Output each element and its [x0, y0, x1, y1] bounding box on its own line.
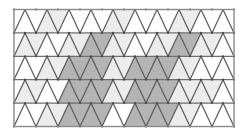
- triangle-edge: [14, 10, 25, 33]
- lattice-vertex-dot: [57, 55, 59, 57]
- lattice-vertex-dot: [167, 79, 169, 81]
- lattice-vertex-dot: [101, 55, 103, 57]
- lattice-vertex-dot: [178, 79, 180, 81]
- lattice-vertex-dot: [145, 102, 147, 104]
- lattice-vertex-dot: [222, 79, 224, 81]
- triangle-edge: [14, 56, 25, 79]
- triangle-edge: [157, 10, 168, 33]
- triangle-edge: [25, 10, 36, 33]
- lattice-vertex-dot: [200, 55, 202, 57]
- lattice-vertex-dot: [189, 102, 191, 104]
- triangle-edge: [80, 10, 91, 33]
- lattice-vertex-dot: [211, 79, 213, 81]
- lattice-vertex-dot: [35, 102, 37, 104]
- triangle-edge: [223, 33, 234, 56]
- lattice-vertex-dot: [90, 79, 92, 81]
- lattice-vertex-dot: [24, 102, 26, 104]
- triangle-edge: [212, 56, 223, 79]
- lattice-vertex-dot: [57, 32, 59, 34]
- lattice-vertex-dot: [68, 102, 70, 104]
- lattice-vertex-dot: [222, 102, 224, 104]
- lattice-vertex-dot: [178, 102, 180, 104]
- lattice-vertex-dot: [178, 55, 180, 57]
- lattice-vertex-dot: [112, 55, 114, 57]
- lattice-vertex-dot: [24, 55, 26, 57]
- lattice-vertex-dot: [200, 102, 202, 104]
- triangle-edge: [14, 103, 25, 126]
- lattice-vertex-dot: [145, 79, 147, 81]
- lattice-vertex-dot: [46, 79, 48, 81]
- lattice-vertex-dot: [145, 55, 147, 57]
- lattice-vertex-dot: [189, 79, 191, 81]
- triangle-edge: [201, 56, 212, 79]
- lattice-vertex-dot: [68, 32, 70, 34]
- lattice-vertex-dot: [134, 79, 136, 81]
- lattice-vertex-dot: [189, 55, 191, 57]
- lattice-vertex-dot: [112, 79, 114, 81]
- lattice-vertex-dot: [79, 55, 81, 57]
- lattice-vertex-dot: [101, 79, 103, 81]
- lattice-vertex-dot: [200, 32, 202, 34]
- lattice-vertex-dot: [35, 79, 37, 81]
- lattice-vertex-dot: [167, 55, 169, 57]
- figure-root: [0, 0, 244, 133]
- lattice-vertex-dot: [24, 79, 26, 81]
- lattice-vertex-dot: [156, 32, 158, 34]
- triangle-edge: [47, 33, 58, 56]
- lattice-vertex-dot: [68, 79, 70, 81]
- lattice-vertex-dot: [123, 79, 125, 81]
- lattice-vertex-dot: [200, 79, 202, 81]
- triangle-edge: [25, 103, 36, 126]
- triangle-edge: [201, 103, 212, 126]
- lattice-vertex-dot: [123, 102, 125, 104]
- triangle-edge: [47, 80, 58, 103]
- triangle-edge: [212, 10, 223, 33]
- lattice-vertex-dot: [134, 102, 136, 104]
- triangular-tiling-diagram: [0, 0, 244, 133]
- lattice-vertex-dot: [123, 55, 125, 57]
- lattice-vertex-dot: [189, 32, 191, 34]
- lattice-vertex-dot: [79, 102, 81, 104]
- lattice-vertex-dot: [145, 32, 147, 34]
- triangle-edge: [212, 103, 223, 126]
- lattice-vertex-dot: [222, 55, 224, 57]
- lattice-vertex-dot: [156, 102, 158, 104]
- lattice-vertex-dot: [101, 102, 103, 104]
- lattice-vertex-dot: [123, 32, 125, 34]
- lattice-vertex-dot: [167, 102, 169, 104]
- triangle-edge: [201, 10, 212, 33]
- lattice-vertex-dot: [46, 102, 48, 104]
- lattice-vertex-dot: [101, 32, 103, 34]
- lattice-vertex-dot: [222, 32, 224, 34]
- triangle-edge: [69, 10, 80, 33]
- triangle-edge: [223, 56, 234, 79]
- triangle-edge: [146, 10, 157, 33]
- triangle-edge: [91, 10, 102, 33]
- triangle-edge: [223, 80, 234, 103]
- lattice-vertex-dot: [112, 32, 114, 34]
- triangle-edge: [223, 10, 234, 33]
- triangle-edge: [25, 56, 36, 79]
- triangle-edge: [113, 103, 124, 126]
- lattice-vertex-dot: [156, 55, 158, 57]
- lattice-vertex-dot: [167, 32, 169, 34]
- lattice-vertex-dot: [112, 102, 114, 104]
- lattice-vertex-dot: [35, 55, 37, 57]
- lattice-vertex-dot: [35, 32, 37, 34]
- triangle-edge: [223, 103, 234, 126]
- lattice-vertex-dot: [211, 55, 213, 57]
- lattice-vertex-dot: [68, 55, 70, 57]
- lattice-vertex-dot: [57, 102, 59, 104]
- lattice-vertex-dot: [46, 55, 48, 57]
- triangle-edge: [135, 10, 146, 33]
- lattice-vertex-dot: [211, 102, 213, 104]
- lattice-vertex-dot: [79, 32, 81, 34]
- lattice-vertex-dot: [90, 102, 92, 104]
- lattice-vertex-dot: [24, 32, 26, 34]
- lattice-vertex-dot: [178, 32, 180, 34]
- lattice-vertex-dot: [134, 32, 136, 34]
- lattice-vertex-dot: [90, 32, 92, 34]
- lattice-vertex-dot: [57, 79, 59, 81]
- lattice-vertex-dot: [90, 55, 92, 57]
- lattice-vertex-dot: [79, 79, 81, 81]
